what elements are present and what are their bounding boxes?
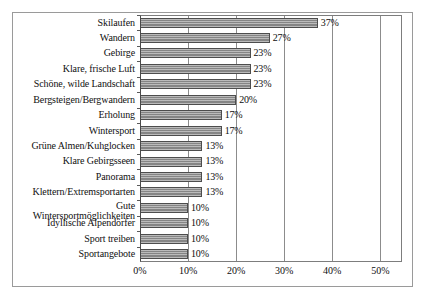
category-label: Wintersport bbox=[89, 126, 135, 137]
bar-row: 13% bbox=[140, 169, 402, 184]
axis-tick bbox=[137, 61, 140, 62]
category-label: Gebirge bbox=[104, 48, 135, 59]
bar bbox=[140, 126, 222, 136]
bar bbox=[140, 187, 202, 197]
bar-value-label: 37% bbox=[321, 16, 339, 30]
bar bbox=[140, 95, 236, 105]
bar-row: 13% bbox=[140, 154, 402, 169]
bar-value-label: 10% bbox=[191, 232, 209, 246]
axis-tick bbox=[137, 46, 140, 47]
category-label: Klare, frische Luft bbox=[63, 64, 135, 75]
bar-value-label: 10% bbox=[191, 201, 209, 215]
bar-value-label: 17% bbox=[225, 124, 243, 138]
category-label: Grüne Almen/Kuhglocken bbox=[31, 141, 135, 152]
bar-row: 10% bbox=[140, 216, 402, 231]
category-label: Wandern bbox=[100, 33, 135, 44]
category-label: Sport treiben bbox=[84, 234, 135, 245]
bar bbox=[140, 64, 251, 74]
bar bbox=[140, 79, 251, 89]
bar-row: 10% bbox=[140, 247, 402, 262]
category-label: Erholung bbox=[99, 110, 135, 121]
axis-tick bbox=[137, 30, 140, 31]
bar-row: 10% bbox=[140, 200, 402, 215]
x-tick-label: 0% bbox=[133, 264, 146, 277]
bar-value-label: 27% bbox=[273, 31, 291, 45]
bar-value-label: 10% bbox=[191, 247, 209, 261]
bar bbox=[140, 141, 202, 151]
x-axis-tick-labels: 0%10%20%30%40%50% bbox=[140, 264, 402, 280]
bar-row: 13% bbox=[140, 139, 402, 154]
bar bbox=[140, 218, 188, 228]
x-tick-label: 40% bbox=[323, 264, 341, 277]
category-label: Klare Gebirgsseen bbox=[63, 156, 135, 167]
category-label: Panorama bbox=[96, 172, 135, 183]
bar-row: 20% bbox=[140, 92, 402, 107]
axis-tick bbox=[137, 216, 140, 217]
bar-row: 13% bbox=[140, 185, 402, 200]
axis-tick bbox=[137, 139, 140, 140]
bar-row: 23% bbox=[140, 77, 402, 92]
axis-tick bbox=[137, 108, 140, 109]
bar-row: 23% bbox=[140, 46, 402, 61]
bar-row: 10% bbox=[140, 231, 402, 246]
bar-value-label: 13% bbox=[205, 154, 223, 168]
category-label: Klettern/Extremsportarten bbox=[33, 187, 135, 198]
bar bbox=[140, 110, 222, 120]
plot-area: 37%27%23%23%23%20%17%17%13%13%13%13%10%1… bbox=[140, 15, 402, 262]
x-tick-label: 10% bbox=[179, 264, 197, 277]
axis-tick bbox=[137, 185, 140, 186]
bar-row: 27% bbox=[140, 30, 402, 45]
chart-figure: SkilaufenWandernGebirgeKlare, frische Lu… bbox=[12, 12, 413, 287]
bar-row: 23% bbox=[140, 61, 402, 76]
bar bbox=[140, 234, 188, 244]
bar bbox=[140, 172, 202, 182]
bar bbox=[140, 48, 251, 58]
axis-tick bbox=[137, 92, 140, 93]
bar-value-label: 10% bbox=[191, 216, 209, 230]
bar-rows: 37%27%23%23%23%20%17%17%13%13%13%13%10%1… bbox=[140, 15, 402, 262]
axis-tick bbox=[137, 200, 140, 201]
axis-tick bbox=[137, 169, 140, 170]
bar-value-label: 13% bbox=[205, 139, 223, 153]
category-label: Bergsteigen/Bergwandern bbox=[33, 95, 135, 106]
bar bbox=[140, 203, 188, 213]
bar-value-label: 17% bbox=[225, 108, 243, 122]
bar-value-label: 23% bbox=[254, 46, 272, 60]
x-tick-label: 30% bbox=[275, 264, 293, 277]
category-label: Schöne, wilde Landschaft bbox=[34, 79, 135, 90]
bar bbox=[140, 157, 202, 167]
bar bbox=[140, 33, 270, 43]
category-axis-labels: SkilaufenWandernGebirgeKlare, frische Lu… bbox=[15, 15, 138, 262]
bar-value-label: 20% bbox=[239, 93, 257, 107]
axis-tick bbox=[137, 123, 140, 124]
axis-tick bbox=[137, 231, 140, 232]
bar-row: 37% bbox=[140, 15, 402, 30]
bar bbox=[140, 18, 318, 28]
category-label: Skilaufen bbox=[98, 18, 135, 29]
bar-row: 17% bbox=[140, 108, 402, 123]
axis-tick bbox=[137, 15, 140, 16]
bar-row: 17% bbox=[140, 123, 402, 138]
x-tick-label: 50% bbox=[371, 264, 389, 277]
bar-value-label: 23% bbox=[254, 77, 272, 91]
axis-tick bbox=[137, 247, 140, 248]
bar bbox=[140, 249, 188, 259]
category-label: Idyllische Alpendörfer bbox=[47, 218, 135, 229]
bar-value-label: 13% bbox=[205, 185, 223, 199]
category-label: Sportangebote bbox=[79, 249, 135, 260]
axis-tick bbox=[137, 154, 140, 155]
axis-tick bbox=[137, 77, 140, 78]
x-tick-label: 20% bbox=[227, 264, 245, 277]
bar-value-label: 23% bbox=[254, 62, 272, 76]
bar-value-label: 13% bbox=[205, 170, 223, 184]
